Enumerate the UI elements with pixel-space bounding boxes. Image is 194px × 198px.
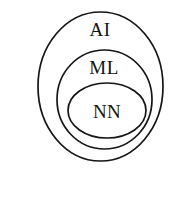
set-label-nn: NN: [93, 101, 121, 122]
venn-diagram-svg: AI ML NN: [0, 0, 194, 198]
nested-set-diagram: AI ML NN: [0, 0, 194, 198]
set-label-ml: ML: [89, 57, 118, 78]
set-label-ai: AI: [90, 19, 111, 40]
